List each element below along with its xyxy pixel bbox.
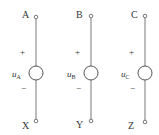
- node-label-x: X: [22, 120, 30, 131]
- voltage-label-c: uC: [121, 69, 130, 80]
- voltage-label-a: uA: [12, 69, 22, 80]
- plus-sign-c: +: [129, 47, 134, 57]
- terminal-c: [143, 14, 147, 18]
- voltage-source-a-icon: [29, 66, 43, 80]
- node-label-z: Z: [128, 120, 134, 131]
- three-phase-source-diagram: A X + − uA B Y + − uB C Z: [0, 0, 159, 135]
- minus-sign-b: −: [76, 83, 81, 93]
- terminal-z: [143, 120, 147, 124]
- terminal-y: [89, 119, 93, 123]
- voltage-source-b-icon: [84, 66, 98, 80]
- minus-sign-c: −: [130, 83, 135, 93]
- voltage-label-b: uB: [67, 69, 76, 80]
- plus-sign-b: +: [75, 47, 80, 57]
- terminal-b: [89, 14, 93, 18]
- terminal-a: [34, 15, 38, 19]
- source-b: B Y + − uB: [67, 9, 98, 130]
- source-c: C Z + − uC: [121, 9, 152, 131]
- node-label-b: B: [76, 9, 83, 20]
- minus-sign-a: −: [21, 83, 26, 93]
- node-label-a: A: [22, 9, 30, 20]
- node-label-c: C: [131, 9, 138, 20]
- voltage-source-c-icon: [138, 66, 152, 80]
- plus-sign-a: +: [20, 47, 25, 57]
- terminal-x: [34, 119, 38, 123]
- source-a: A X + − uA: [12, 9, 43, 131]
- node-label-y: Y: [76, 119, 83, 130]
